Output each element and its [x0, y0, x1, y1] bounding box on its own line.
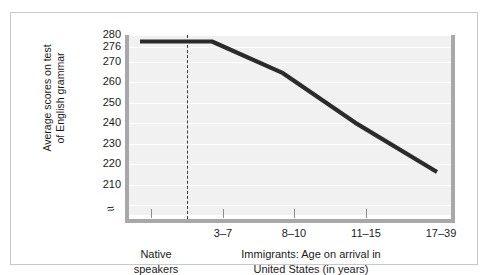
y-axis-title-line2: of English grammar — [54, 18, 67, 178]
gridline — [129, 62, 451, 63]
right-axis-rail — [451, 35, 455, 223]
y-tick-label: 250 — [103, 97, 121, 108]
group-caption-native-line1: Native — [134, 247, 179, 262]
native-immigrant-divider-line — [187, 35, 188, 219]
gridline — [129, 185, 451, 186]
x-tick-label: 11–15 — [351, 227, 381, 239]
chart-figure: 280 276 270 260 250 240 230 220 210 ≈ Av… — [0, 0, 487, 275]
y-tick-label: 220 — [103, 158, 121, 169]
plot-area — [129, 35, 451, 215]
gridline — [129, 123, 451, 124]
gridline — [129, 164, 451, 165]
y-tick-label: 230 — [103, 138, 121, 149]
y-tick-label: 276 — [103, 41, 121, 52]
x-tick-label: 3–7 — [214, 227, 232, 239]
x-axis-rail — [125, 219, 455, 223]
y-axis-title: Average scores on test of English gramma… — [41, 18, 75, 178]
group-caption-immigrants: Immigrants: Age on arrival in United Sta… — [241, 247, 380, 275]
gridline — [129, 35, 451, 36]
y-axis-title-line1: Average scores on test — [41, 18, 54, 178]
gridline — [129, 82, 451, 83]
x-tick-label: 17–39 — [426, 227, 457, 239]
y-axis-tick-labels: 280 276 270 260 250 240 230 220 210 — [73, 13, 121, 275]
y-tick-label: 270 — [103, 56, 121, 67]
y-axis-rail — [125, 35, 129, 223]
x-tick-mark — [223, 209, 224, 218]
y-tick-label: 210 — [103, 179, 121, 190]
group-caption-native-line2: speakers — [134, 262, 179, 275]
group-caption-immigrants-line1: Immigrants: Age on arrival in — [241, 247, 380, 262]
gridline — [129, 103, 451, 104]
y-tick-label: 260 — [103, 76, 121, 87]
gridline — [129, 47, 451, 48]
y-tick-label: 280 — [103, 29, 121, 40]
x-tick-mark — [294, 209, 295, 218]
group-caption-native-speakers: Native speakers — [134, 247, 179, 275]
x-tick-mark — [151, 209, 152, 218]
y-tick-label: 240 — [103, 117, 121, 128]
gridline — [129, 205, 451, 206]
x-tick-label: 8–10 — [282, 227, 306, 239]
x-tick-mark — [366, 209, 367, 218]
group-caption-immigrants-line2: United States (in years) — [241, 262, 380, 275]
figure-frame: 280 276 270 260 250 240 230 220 210 ≈ Av… — [10, 12, 478, 265]
gridline — [129, 144, 451, 145]
